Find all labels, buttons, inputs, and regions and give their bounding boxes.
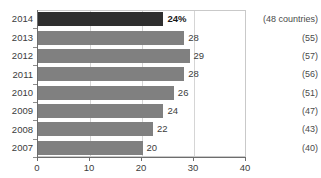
- secondary-label-2014: (48 countries): [263, 15, 318, 24]
- bar-value-2013: 28: [184, 33, 199, 43]
- x-tick-label-40: 40: [240, 163, 251, 173]
- table-row: 2009 24 (47): [0, 102, 321, 120]
- x-tick-mark-20: [141, 157, 142, 161]
- category-label-2011: 2011: [0, 70, 33, 80]
- secondary-label-2012: (57): [302, 51, 318, 60]
- x-axis-ticks: 0 10 20 30 40: [0, 157, 321, 177]
- bar-2010: [38, 86, 174, 100]
- bar-2012: [38, 49, 190, 63]
- category-label-2013: 2013: [0, 33, 33, 43]
- table-row: 2014 24% (48 countries): [0, 10, 321, 28]
- table-row: 2008 22 (43): [0, 120, 321, 138]
- x-tick-label-10: 10: [84, 163, 95, 173]
- bar-2007: [38, 141, 143, 155]
- table-row: 2011 28 (56): [0, 65, 321, 83]
- x-tick-mark-40: [245, 157, 246, 161]
- secondary-label-2008: (43): [302, 125, 318, 134]
- bar-track-2008: 22: [38, 122, 247, 136]
- category-label-2007: 2007: [0, 143, 33, 153]
- bar-value-2009: 24: [163, 106, 178, 116]
- x-tick-label-30: 30: [188, 163, 199, 173]
- category-label-2012: 2012: [0, 51, 33, 61]
- category-label-2009: 2009: [0, 106, 33, 116]
- bar-value-2010: 26: [174, 88, 189, 98]
- table-row: 2007 20 (40): [0, 139, 321, 157]
- x-tick-mark-10: [89, 157, 90, 161]
- x-tick-label-20: 20: [136, 163, 147, 173]
- table-row: 2013 28 (55): [0, 28, 321, 46]
- chart-title-cropped: [8, 0, 248, 3]
- table-row: 2010 26 (51): [0, 84, 321, 102]
- bar-track-2014: 24%: [38, 12, 247, 26]
- bar-2008: [38, 122, 153, 136]
- secondary-label-2007: (40): [302, 143, 318, 152]
- bar-chart: 2014 24% (48 countries) 2013 28 (55) 201…: [0, 0, 321, 178]
- bar-track-2007: 20: [38, 141, 247, 155]
- bar-2009: [38, 104, 163, 118]
- secondary-label-2009: (47): [302, 107, 318, 116]
- bar-track-2012: 29: [38, 49, 247, 63]
- secondary-label-2010: (51): [302, 88, 318, 97]
- bar-value-2014: 24%: [163, 14, 186, 24]
- bar-2013: [38, 31, 184, 45]
- secondary-label-2013: (55): [302, 33, 318, 42]
- category-label-2014: 2014: [0, 14, 33, 24]
- bar-value-2007: 20: [143, 143, 158, 153]
- bar-track-2011: 28: [38, 67, 247, 81]
- bar-2011: [38, 67, 184, 81]
- table-row: 2012 29 (57): [0, 47, 321, 65]
- bar-track-2010: 26: [38, 86, 247, 100]
- category-label-2008: 2008: [0, 125, 33, 135]
- bar-track-2013: 28: [38, 31, 247, 45]
- bar-value-2012: 29: [190, 51, 205, 61]
- category-label-2010: 2010: [0, 88, 33, 98]
- bar-track-2009: 24: [38, 104, 247, 118]
- bar-2014: [38, 12, 163, 26]
- bar-value-2011: 28: [184, 70, 199, 80]
- bar-rows: 2014 24% (48 countries) 2013 28 (55) 201…: [0, 10, 321, 157]
- x-tick-label-0: 0: [34, 163, 39, 173]
- secondary-label-2011: (56): [302, 70, 318, 79]
- x-tick-mark-30: [193, 157, 194, 161]
- bar-value-2008: 22: [153, 125, 168, 135]
- x-tick-mark-0: [37, 157, 38, 161]
